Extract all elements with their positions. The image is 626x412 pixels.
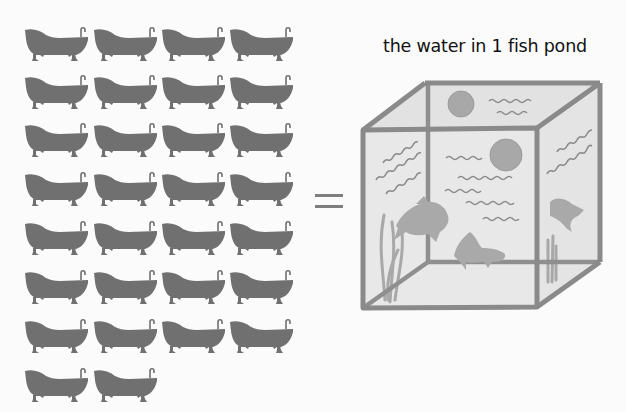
fish-tank-icon: [0, 0, 626, 412]
bubble-icon: [448, 91, 474, 117]
bubble-icon: [490, 139, 522, 171]
